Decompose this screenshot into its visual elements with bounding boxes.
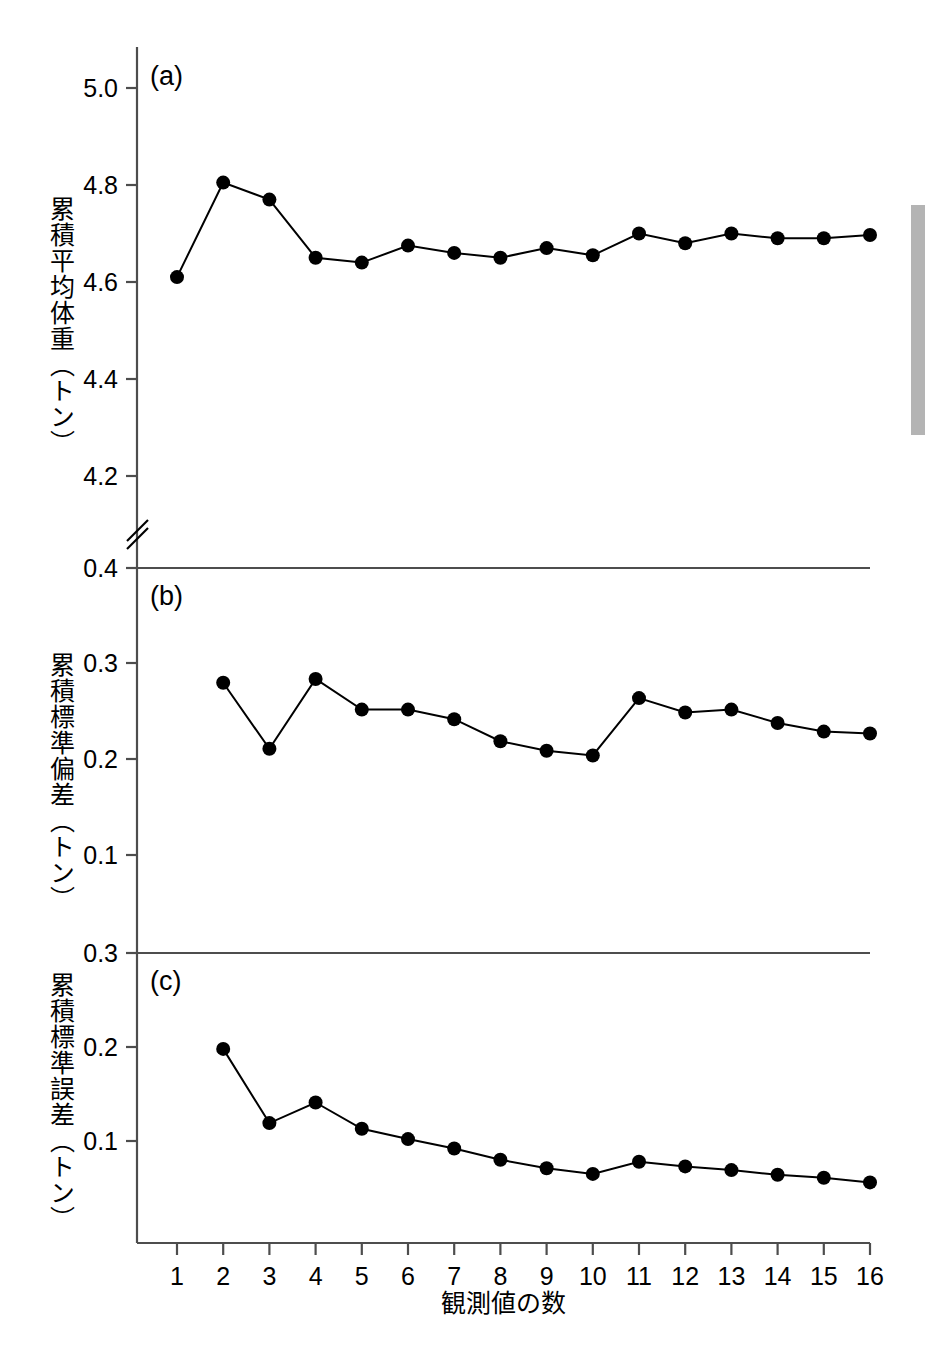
panel-b-ticklabel-2: 0.2 [83,745,118,773]
data-point [170,270,184,284]
data-point [355,703,369,717]
panel-a-ticklabel-3: 4.4 [83,365,118,393]
panel-c-ticklabel-2: 0.1 [83,1127,118,1155]
data-point [447,246,461,260]
x-axis: 12345678910111213141516 [137,1243,884,1290]
panel-b: 0.4 0.3 0.2 0.1 (b) [83,554,877,953]
data-point [262,742,276,756]
x-axis-tick-labels: 12345678910111213141516 [170,1262,884,1290]
data-point [309,251,323,265]
data-point [678,236,692,250]
data-point [493,251,507,265]
data-point [447,1142,461,1156]
data-point [493,734,507,748]
x-axis-tick-label: 10 [579,1262,607,1290]
data-point [724,703,738,717]
x-axis-tick-label: 1 [170,1262,184,1290]
data-point [771,1168,785,1182]
panel-c-series [216,1042,877,1190]
panel-c-y-axis-title: 累積標準誤差（トン） [48,972,73,1232]
x-axis-tick-label: 9 [540,1262,554,1290]
x-axis-tick-label: 5 [355,1262,369,1290]
panel-b-tag: (b) [150,581,183,611]
panel-a-ticklabel-1: 4.8 [83,171,118,199]
data-point [586,1167,600,1181]
x-axis-tick-label: 16 [856,1262,884,1290]
panel-a-ticklabel-0: 5.0 [83,74,118,102]
data-point [493,1153,507,1167]
panel-c-markers [216,1042,877,1190]
data-point [540,1161,554,1175]
x-axis-tick-label: 11 [626,1262,652,1290]
x-axis-tick-label: 15 [810,1262,838,1290]
x-axis-tick-label: 6 [401,1262,415,1290]
data-point [771,716,785,730]
panel-c-tag: (c) [150,966,181,996]
panel-b-series [216,672,877,763]
scrollbar-thumb[interactable] [911,205,925,435]
data-point [401,703,415,717]
data-point [401,239,415,253]
panel-a-ticklabel-4: 4.2 [83,462,118,490]
data-point [401,1132,415,1146]
panel-b-ticklabel-1: 0.3 [83,649,118,677]
panel-c-ticklabel-0: 0.3 [83,939,118,967]
data-point [355,256,369,270]
data-point [309,1096,323,1110]
data-point [262,193,276,207]
data-point [355,1122,369,1136]
data-point [216,1042,230,1056]
x-axis-tick-label: 12 [671,1262,699,1290]
data-point [447,712,461,726]
data-point [771,231,785,245]
figure-container: 5.0 4.8 4.6 4.4 4.2 (a) [0,0,930,1358]
x-axis-tick-label: 7 [447,1262,461,1290]
data-point [632,1155,646,1169]
data-point [817,231,831,245]
panel-c: 0.3 0.2 0.1 (c) [83,939,877,1243]
panel-a-series [170,176,877,285]
data-point [586,749,600,763]
data-point [863,228,877,242]
panel-a-line [177,183,870,278]
panel-a: 5.0 4.8 4.6 4.4 4.2 (a) [83,47,877,568]
x-axis-tick-label: 3 [262,1262,276,1290]
data-point [817,1171,831,1185]
data-point [632,227,646,241]
x-axis-ticks [177,1243,870,1255]
x-axis-tick-label: 8 [493,1262,507,1290]
panel-a-tag: (a) [150,61,183,91]
data-point [540,744,554,758]
panel-a-markers [170,176,877,285]
panel-b-y-axis-title: 累積標準偏差（トン） [48,652,73,912]
data-point [863,1175,877,1189]
panel-a-ticklabel-2: 4.6 [83,268,118,296]
data-point [724,227,738,241]
data-point [678,706,692,720]
panel-a-y-axis-title: 累積平均体重（トン） [48,196,73,456]
data-point [724,1163,738,1177]
x-axis-tick-label: 14 [764,1262,792,1290]
x-axis-tick-label: 13 [717,1262,745,1290]
panel-b-ticklabel-3: 0.1 [83,841,118,869]
data-point [216,176,230,190]
data-point [817,725,831,739]
data-point [586,248,600,262]
x-axis-tick-label: 4 [309,1262,323,1290]
data-point [216,676,230,690]
panel-c-ticklabel-1: 0.2 [83,1033,118,1061]
data-point [678,1159,692,1173]
panel-b-ticklabel-0: 0.4 [83,554,118,582]
data-point [863,727,877,741]
data-point [632,691,646,705]
x-axis-tick-label: 2 [216,1262,230,1290]
data-point [540,241,554,255]
panel-b-markers [216,672,877,763]
x-axis-title: 観測値の数 [441,1289,566,1318]
data-point [262,1116,276,1130]
data-point [309,672,323,686]
multi-panel-line-chart: 5.0 4.8 4.6 4.4 4.2 (a) [0,0,930,1358]
